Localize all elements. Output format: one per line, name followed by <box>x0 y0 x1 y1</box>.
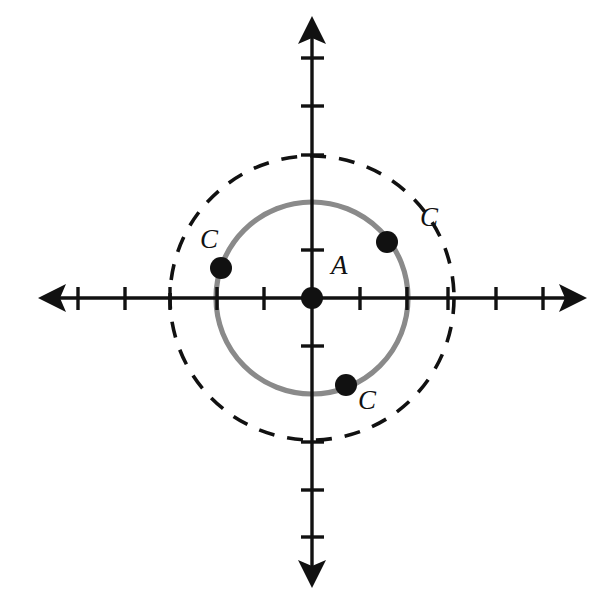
point-c-left-label: C <box>200 226 218 253</box>
geometry-figure: C C C A <box>0 0 610 606</box>
point-c-upper-right-marker[interactable] <box>376 231 398 253</box>
point-c-upper-right-label: C <box>420 204 438 231</box>
center-point-a-marker[interactable] <box>301 287 323 309</box>
point-c-left-marker[interactable] <box>210 257 232 279</box>
point-c-lower-marker[interactable] <box>335 374 357 396</box>
coordinate-plane-diagram <box>0 0 610 606</box>
center-point-a-label: A <box>331 252 348 279</box>
point-c-lower-label: C <box>358 387 376 414</box>
